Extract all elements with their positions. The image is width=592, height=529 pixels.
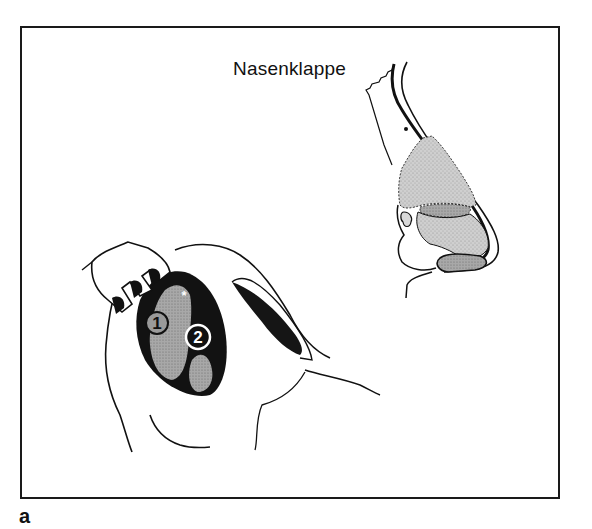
alar-rim: [437, 254, 486, 272]
marker-2: 2: [186, 325, 210, 349]
illustration: 1 2 *: [0, 0, 592, 529]
sesamoid-cartilage: [401, 212, 412, 227]
marker-2-label: 2: [193, 328, 202, 347]
lower-lateral-cartilage: [417, 212, 489, 259]
nose-profile-drawing: [366, 62, 498, 298]
nasal-speculum-view: [82, 242, 380, 452]
face-outline-bottom: [150, 415, 210, 448]
landmark-dot: [404, 127, 408, 131]
speculum-handle-line: [82, 262, 92, 270]
nasal-bone-edge: [366, 64, 394, 165]
lower-face-line: [255, 372, 305, 450]
marker-1-label: 1: [152, 314, 161, 333]
panel-label: a: [19, 506, 30, 526]
cheek-outline: [305, 370, 380, 395]
upper-lateral-cartilage: [399, 136, 476, 208]
marker-1: 1: [146, 312, 168, 334]
upper-lip-line: [406, 272, 432, 298]
